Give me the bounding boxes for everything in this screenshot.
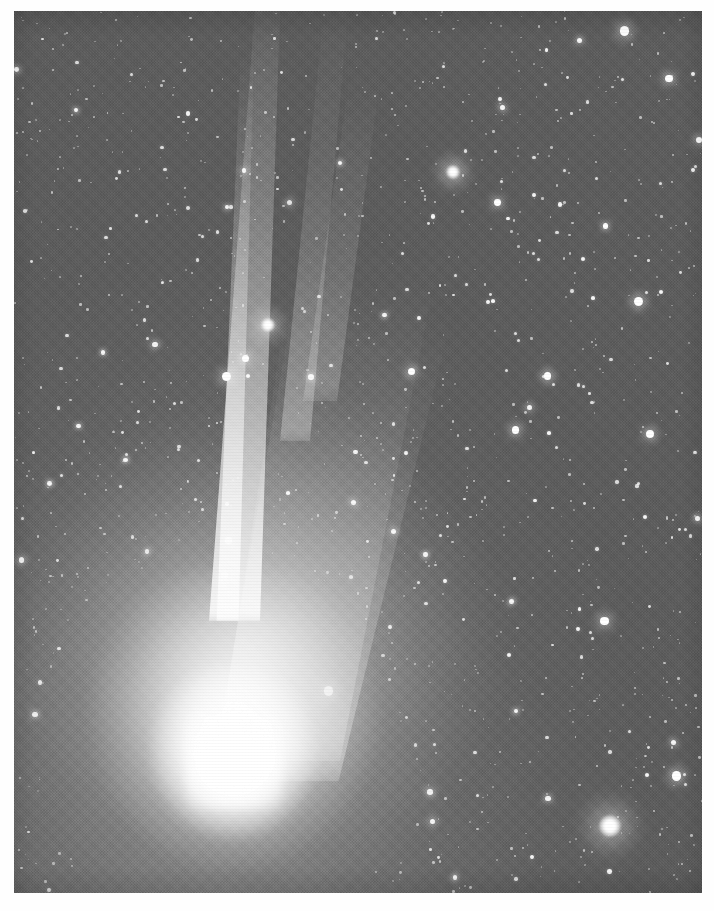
astrophotograph-plate: [14, 11, 702, 893]
plate-edge-shading: [14, 11, 702, 893]
photo-page: [0, 0, 714, 911]
